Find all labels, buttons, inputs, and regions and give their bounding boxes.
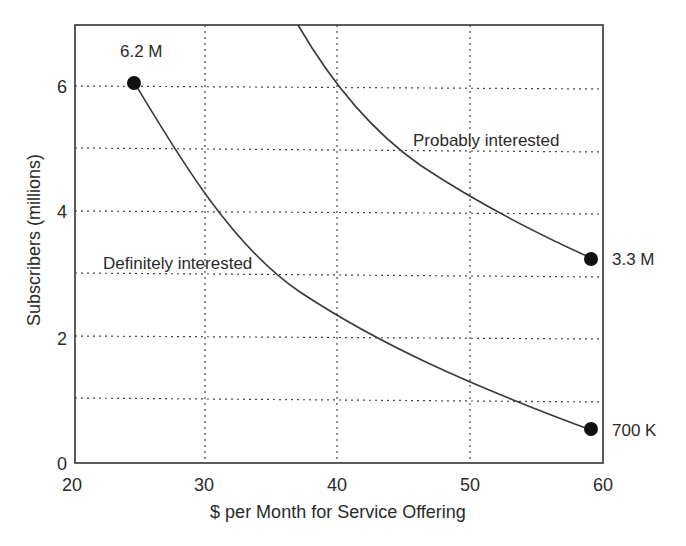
- point-label-700k: 700 K: [612, 421, 657, 440]
- series-label-probably: Probably interested: [413, 131, 559, 150]
- plot-frame: [75, 25, 603, 463]
- x-tick-labels: 20 30 40 50 60: [62, 475, 613, 495]
- x-axis-title: $ per Month for Service Offering: [210, 502, 466, 522]
- point-label-3-3m: 3.3 M: [612, 250, 655, 269]
- y-tick-2: 2: [57, 329, 67, 349]
- y-tick-0: 0: [57, 454, 67, 474]
- y-axis-title: Subscribers (millions): [24, 154, 44, 326]
- chart: 6.2 M 3.3 M 700 K Definitely interested …: [0, 0, 686, 546]
- y-tick-4: 4: [57, 202, 67, 222]
- definitely-start-marker: [127, 76, 141, 90]
- grid-lines: [75, 25, 603, 463]
- probably-end-marker: [584, 252, 598, 266]
- x-tick-20: 20: [62, 475, 82, 495]
- y-tick-6: 6: [57, 77, 67, 97]
- x-tick-50: 50: [460, 475, 480, 495]
- point-label-6-2m: 6.2 M: [120, 42, 163, 61]
- x-tick-60: 60: [593, 475, 613, 495]
- series-label-definitely: Definitely interested: [103, 254, 252, 273]
- definitely-end-marker: [584, 422, 598, 436]
- x-tick-30: 30: [194, 475, 214, 495]
- x-tick-40: 40: [327, 475, 347, 495]
- y-tick-labels: 0 2 4 6: [57, 77, 67, 474]
